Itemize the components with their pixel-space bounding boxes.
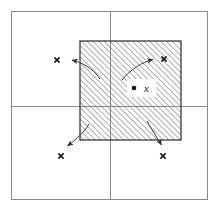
marker-x-top-left	[54, 57, 59, 62]
center-point-dot	[132, 86, 137, 91]
center-point-halo	[127, 79, 156, 97]
marker-x-bottom-right	[160, 153, 165, 158]
diagram-canvas: x	[0, 0, 222, 211]
center-point-group: x	[127, 79, 156, 97]
figure-container: x	[0, 0, 222, 211]
center-point-label: x	[143, 82, 149, 94]
marker-x-bottom-left	[58, 153, 63, 158]
